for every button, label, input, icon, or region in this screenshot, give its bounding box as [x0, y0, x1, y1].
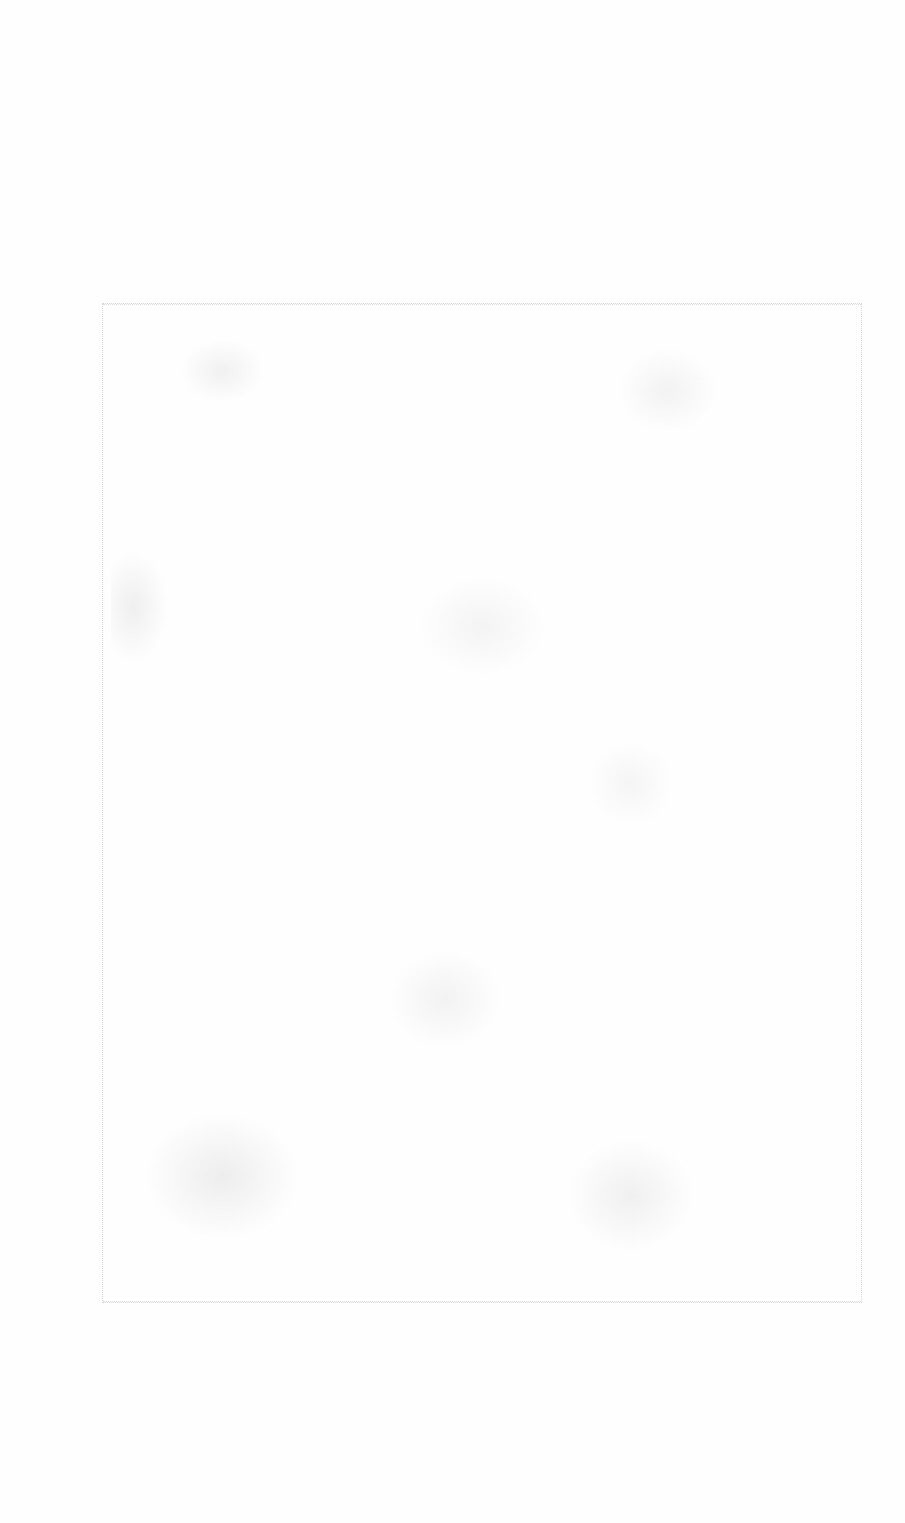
scanned-page — [0, 0, 905, 1523]
page-frame — [102, 303, 862, 1303]
frame-bottom-rule — [103, 1301, 861, 1302]
faded-texture-area — [111, 312, 853, 1294]
frame-top-rule — [103, 304, 861, 305]
